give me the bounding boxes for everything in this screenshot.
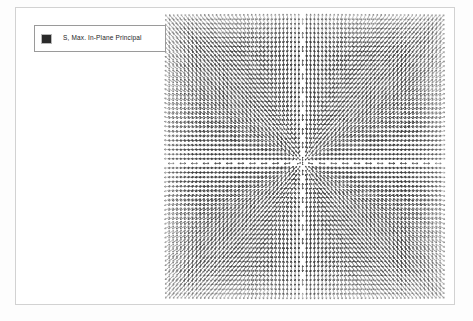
principal-stress-vector-field [16, 8, 454, 304]
plot-viewport: S, Max. In-Plane Principal [15, 7, 455, 305]
legend-label: S, Max. In-Plane Principal [63, 35, 142, 42]
legend-color-swatch-icon [41, 34, 52, 44]
legend[interactable]: S, Max. In-Plane Principal [34, 25, 166, 52]
